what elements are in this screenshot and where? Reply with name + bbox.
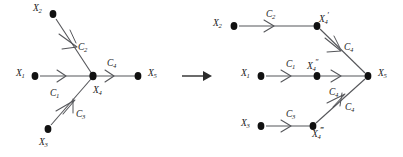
node-x5 — [135, 72, 142, 80]
label-node-x2: X2 — [33, 4, 42, 14]
label-node-x1: X1 — [16, 69, 25, 79]
node-x1 — [32, 72, 39, 80]
node-x4-double-prime — [314, 72, 321, 80]
node-x2 — [50, 10, 57, 18]
label-edge-c2: C2 — [78, 43, 88, 53]
edge-c4-top — [320, 29, 365, 73]
node-x3-right — [258, 122, 265, 130]
node-x3 — [45, 125, 52, 133]
left-graph-group — [32, 10, 142, 133]
label-edge-c4-mid: C4 — [329, 88, 339, 98]
figure-canvas: X1 X2 X3 X4 X5 C1 C2 C3 C4 X2 X4′ X1 X4″… — [0, 0, 403, 157]
label-node-x4: X4 — [93, 86, 102, 96]
label-edge-c2-right: C2 — [266, 10, 276, 20]
label-edge-c1-right: C1 — [286, 60, 296, 70]
label-node-x5-right: X5 — [378, 69, 387, 79]
label-node-x4-prime: X4′ — [319, 15, 330, 25]
label-node-x3: X3 — [39, 138, 48, 148]
label-node-x1-right: X1 — [241, 69, 250, 79]
label-edge-c4: C4 — [107, 59, 117, 69]
label-node-x4-double-prime: X4″ — [307, 62, 319, 72]
label-edge-c4-top: C4 — [344, 43, 354, 53]
transform-arrow — [182, 71, 212, 81]
label-node-x2-right: X2 — [213, 19, 222, 29]
node-x5-right — [365, 72, 372, 80]
label-edge-c4-bot: C4 — [345, 103, 355, 113]
label-node-x5: X5 — [148, 69, 157, 79]
transform-arrow-head — [203, 71, 212, 81]
node-x2-right — [231, 22, 238, 30]
label-node-x3-right: X3 — [241, 119, 250, 129]
label-edge-c3: C3 — [76, 110, 86, 120]
label-node-x4-triple-prime: X4‴ — [312, 130, 324, 140]
right-graph-group — [231, 20, 372, 132]
diagram-svg — [0, 0, 403, 157]
label-edge-c1: C1 — [50, 89, 60, 99]
node-x4 — [89, 72, 96, 80]
node-x1-right — [258, 72, 265, 80]
arrowhead-c3 — [56, 100, 75, 114]
label-edge-c3-right: C3 — [286, 110, 296, 120]
